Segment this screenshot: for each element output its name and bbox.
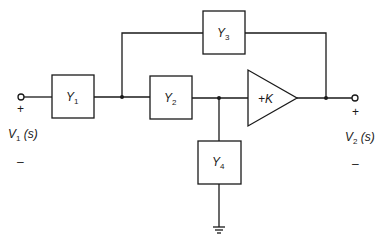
input-terminal [18, 94, 24, 100]
output-terminal [352, 95, 358, 101]
input-plus: + [17, 102, 24, 116]
output-plus: + [352, 105, 359, 119]
output-minus: – [352, 157, 359, 171]
block-y4: Y4 [198, 141, 241, 184]
block-y1: Y1 [52, 75, 94, 118]
ground-icon [213, 227, 225, 233]
output-voltage-label: V2 (s) [345, 130, 375, 146]
svg-text:+K: +K [258, 92, 274, 106]
amplifier-k: +K [248, 70, 297, 126]
circuit-diagram: Y1 Y3 Y2 Y4 +K + V1 (s) – + V2 (s) [0, 0, 378, 250]
input-voltage-label: V1 (s) [8, 127, 38, 143]
block-y2: Y2 [150, 76, 192, 119]
junction-output [324, 96, 328, 100]
input-minus: – [17, 155, 24, 169]
block-y3: Y3 [203, 11, 245, 54]
